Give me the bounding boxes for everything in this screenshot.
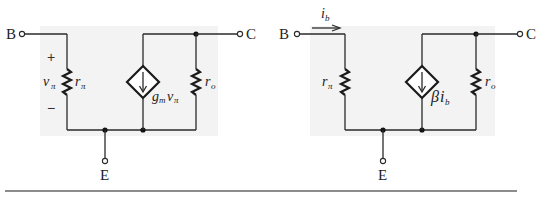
right-base-label: B <box>279 26 289 42</box>
left-emitter-terminal <box>102 158 107 163</box>
right-base-terminal <box>294 31 299 36</box>
left-circuit: B + − v π r π g m v π C r <box>6 26 256 183</box>
left-source-var-sub: π <box>174 95 179 105</box>
right-emitter-terminal <box>380 158 385 163</box>
right-circuit: B i b r π β i b C r <box>279 6 536 183</box>
left-vpi-subscript: π <box>51 81 56 91</box>
right-collector-label: C <box>526 26 536 42</box>
right-background-shade <box>310 26 495 136</box>
left-vpi-symbol: v <box>43 74 50 89</box>
left-source-var: v <box>167 89 174 104</box>
left-source-coef-sub: m <box>159 95 166 105</box>
left-base-terminal <box>19 31 24 36</box>
right-ib-subscript: b <box>325 13 330 23</box>
right-emitter-label: E <box>378 167 387 183</box>
left-vpi-plus: + <box>47 49 55 65</box>
left-collector-terminal <box>237 31 242 36</box>
right-ro-subscript: o <box>491 81 496 91</box>
right-collector-terminal <box>517 31 522 36</box>
right-rpi-subscript: π <box>328 81 333 91</box>
circuit-figure: B + − v π r π g m v π C r <box>0 0 545 197</box>
left-collector-label: C <box>246 26 256 42</box>
left-source-coef: g <box>152 89 159 104</box>
right-source-var-sub: b <box>445 97 450 107</box>
right-source-var: i <box>440 88 444 105</box>
left-rpi-subscript: π <box>81 81 86 91</box>
left-emitter-label: E <box>100 167 109 183</box>
right-source-coef: β <box>430 88 439 106</box>
left-vpi-minus: − <box>47 100 55 116</box>
left-base-label: B <box>6 26 16 42</box>
left-ro-subscript: o <box>211 81 216 91</box>
